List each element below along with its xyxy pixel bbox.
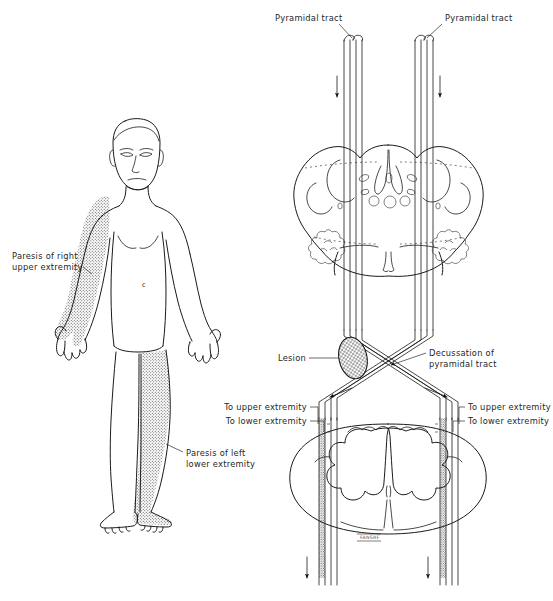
svg-text:To upper extremity: To upper extremity — [467, 402, 551, 412]
figure-canvas: c Paresis of right upper extremity — [0, 0, 553, 601]
svg-text:To lower extremity: To lower extremity — [225, 416, 307, 426]
svg-text:Paresis of left: Paresis of left — [186, 448, 246, 458]
svg-text:upper extremity: upper extremity — [12, 262, 83, 272]
svg-text:lower extremity: lower extremity — [186, 459, 255, 469]
tract-band-left-lateral — [319, 418, 325, 578]
pyramidal-tract-figure: c Paresis of right upper extremity — [0, 0, 553, 601]
svg-text:To upper extremity: To upper extremity — [223, 402, 307, 412]
svg-text:Pyramidal tract: Pyramidal tract — [275, 13, 343, 23]
svg-text:Pyramidal tract: Pyramidal tract — [445, 13, 513, 23]
svg-text:Decussation of: Decussation of — [429, 348, 495, 358]
svg-text:Paresis of right: Paresis of right — [12, 251, 78, 261]
torso-mark-c: c — [142, 281, 146, 289]
svg-text:Lesion: Lesion — [278, 353, 306, 363]
svg-text:To lower extremity: To lower extremity — [467, 416, 549, 426]
svg-text:FANSRF: FANSRF — [360, 535, 379, 540]
tract-band-right-lateral — [440, 418, 446, 578]
artist-signature: FANSRF — [357, 534, 381, 541]
svg-text:pyramidal tract: pyramidal tract — [429, 359, 497, 369]
